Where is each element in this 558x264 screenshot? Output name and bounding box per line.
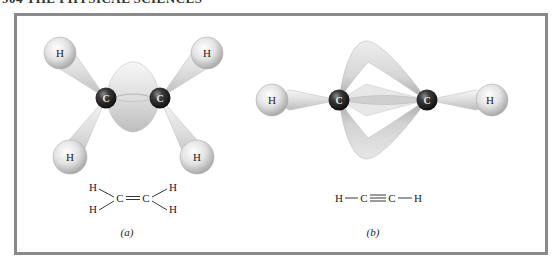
hydrogen-atom: H — [191, 37, 223, 69]
bond-lines — [345, 195, 412, 201]
svg-text:C: C — [335, 95, 342, 106]
ethylene-structural-formula: H H C C H H — [89, 181, 177, 215]
panel-label-a: (a) — [121, 226, 134, 239]
svg-text:C: C — [423, 95, 430, 106]
svg-text:C: C — [156, 93, 163, 104]
orbital-figure: H H H H C C H H C C H H — [0, 0, 558, 264]
acetylene-model: H H C C — [256, 41, 508, 159]
svg-text:C: C — [360, 192, 367, 204]
svg-text:H: H — [89, 203, 97, 215]
carbon-atom: C — [150, 88, 171, 109]
svg-text:H: H — [203, 47, 211, 59]
svg-text:H: H — [193, 151, 201, 163]
carbon-atom: C — [329, 90, 350, 111]
svg-text:C: C — [102, 93, 109, 104]
svg-text:H: H — [268, 94, 276, 106]
carbon-atom: C — [417, 90, 438, 111]
svg-text:C: C — [116, 192, 123, 204]
bond-lines — [99, 189, 167, 210]
panel-label-b: (b) — [367, 226, 380, 239]
svg-text:C: C — [388, 192, 395, 204]
hydrogen-atom: H — [53, 140, 87, 174]
svg-text:H: H — [169, 181, 177, 193]
svg-text:H: H — [414, 192, 422, 204]
svg-text:H: H — [66, 151, 74, 163]
carbon-atom: C — [96, 88, 117, 109]
hydrogen-atom: H — [256, 84, 288, 116]
svg-text:H: H — [56, 47, 64, 59]
acetylene-structural-formula: H C C H — [335, 192, 422, 204]
hydrogen-atom: H — [44, 37, 76, 69]
svg-text:H: H — [486, 94, 494, 106]
hydrogen-atom: H — [476, 84, 508, 116]
svg-text:H: H — [335, 192, 343, 204]
ethylene-model: H H H H C C — [44, 37, 223, 174]
hydrogen-atom: H — [180, 140, 214, 174]
svg-text:C: C — [142, 192, 149, 204]
svg-text:H: H — [89, 181, 97, 193]
svg-text:H: H — [169, 203, 177, 215]
